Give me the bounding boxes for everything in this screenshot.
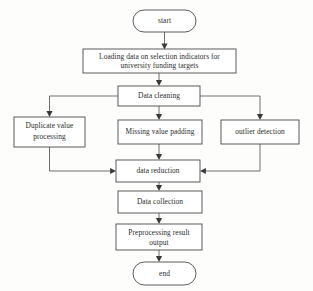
node-loading-data[interactable]: Loading data on selection indicators for… [83, 49, 236, 73]
node-outlier-detection[interactable]: outlier detection [221, 120, 299, 144]
node-layer: start Loading data on selection indicato… [14, 10, 299, 285]
node-missing-value-padding-label: Missing value padding [125, 127, 194, 136]
node-data-reduction-label: data reduction [136, 166, 179, 175]
node-data-collection[interactable]: Data collection [118, 191, 202, 213]
edge-preprocessing-to-end [156, 250, 162, 262]
node-data-collection-label: Data collection [137, 197, 183, 206]
node-loading-data-label-line1: Loading data on selection indicators for [99, 52, 220, 61]
node-loading-data-label-line2: university funding targets [121, 61, 199, 70]
node-preprocessing-result-output[interactable]: Preprocessing result output [116, 224, 202, 250]
edge-data-collection-to-preprocessing [156, 213, 162, 224]
edge-duplicate-to-data-reduction [50, 147, 117, 174]
node-preprocessing-result-output-label-line2: output [149, 238, 169, 247]
node-preprocessing-result-output-label-line1: Preprocessing result [128, 228, 190, 237]
edge-data-cleaning-to-outlier [200, 96, 263, 120]
edge-data-cleaning-to-duplicate [46, 96, 118, 117]
node-duplicate-value-processing-label-line1: Duplicate value [26, 121, 74, 130]
node-data-cleaning[interactable]: Data cleaning [118, 86, 200, 106]
node-missing-value-padding[interactable]: Missing value padding [118, 120, 202, 144]
node-data-reduction[interactable]: data reduction [116, 160, 200, 182]
node-duplicate-value-processing-label-line2: processing [33, 132, 66, 141]
edge-loading-to-data-cleaning [156, 73, 162, 86]
edge-outlier-to-data-reduction [200, 144, 260, 174]
flowchart-canvas: start Loading data on selection indicato… [0, 0, 313, 291]
node-end[interactable]: end [133, 262, 196, 285]
node-duplicate-value-processing[interactable]: Duplicate value processing [14, 117, 85, 147]
edge-start-to-loading [161, 32, 167, 50]
edge-missing-value-to-data-reduction [156, 144, 162, 160]
flowchart-svg: start Loading data on selection indicato… [0, 0, 313, 291]
node-data-cleaning-label: Data cleaning [138, 91, 180, 100]
node-outlier-detection-label: outlier detection [235, 127, 285, 136]
node-end-label: end [159, 269, 170, 278]
edge-data-reduction-to-data-collection [156, 182, 162, 191]
edge-data-cleaning-to-missing-value [156, 106, 162, 120]
node-start[interactable]: start [133, 10, 196, 32]
node-start-label: start [158, 16, 172, 25]
